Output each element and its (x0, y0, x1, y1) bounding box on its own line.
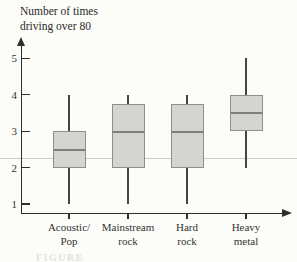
y-axis-arrow-icon (17, 37, 25, 46)
category-label: Heavymetal (211, 221, 281, 248)
median-line (172, 131, 203, 133)
y-tick (21, 58, 30, 59)
category-label-line: Heavy (211, 221, 281, 235)
y-tick-label: 5 (0, 51, 17, 65)
median-line (113, 131, 144, 133)
y-tick (21, 94, 30, 95)
median-line (231, 112, 262, 114)
iqr-box (171, 104, 204, 168)
y-tick (21, 167, 30, 168)
category-label-line: metal (211, 235, 281, 249)
chart-title: Number of times driving over 80 (20, 4, 98, 34)
chart-title-line-1: Number of times (20, 4, 98, 19)
iqr-box (53, 131, 86, 167)
figure-caption: FIGURE (36, 252, 84, 262)
y-axis (21, 44, 23, 214)
y-tick (21, 131, 30, 132)
x-axis-arrow-icon (282, 209, 292, 217)
iqr-box (230, 95, 263, 131)
boxplot-chart: Number of times driving over 80 12345Aco… (0, 0, 297, 262)
y-tick-label: 3 (0, 124, 17, 138)
y-tick-label: 4 (0, 88, 17, 102)
x-axis (21, 213, 285, 215)
y-tick (21, 203, 30, 204)
iqr-box (112, 104, 145, 168)
y-tick-label: 2 (0, 161, 17, 175)
y-tick-label: 1 (0, 197, 17, 211)
reference-line (0, 158, 297, 159)
median-line (54, 149, 85, 151)
chart-title-line-2: driving over 80 (20, 19, 98, 34)
